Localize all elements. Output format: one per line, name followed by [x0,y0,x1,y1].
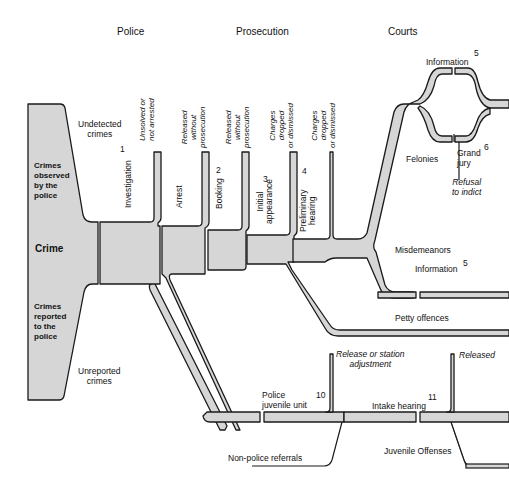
label-released: Released [459,350,495,360]
stage-police: Police [117,27,144,37]
information-mid-bar-right [420,292,509,298]
label-intake: Intake hearing [372,401,426,411]
label-non-police: Non-police referrals [228,453,302,463]
num-initial: 3 [263,174,268,184]
stage-courts: Courts [388,27,417,37]
grand-jury-path [418,106,452,142]
exit-released-1: Released without prosecution [180,107,207,148]
num-police-unit: 10 [316,390,325,400]
num-grand-jury: 6 [484,142,489,152]
label-grand-jury: Grand jury [457,148,481,168]
exit-released-2: Released without prosecution [224,107,251,148]
release-station-exit [326,354,333,412]
juvenile-bar-1 [203,412,260,422]
label-initial: Initial appearance [256,179,274,224]
information-top-path-r [455,68,509,108]
label-undetected: Undetected crimes [78,119,121,139]
num-information-top: 5 [474,48,479,58]
label-petty: Petty offences [395,313,449,323]
label-crime: Crime [35,244,63,254]
num-booking: 2 [216,165,221,175]
label-prelim: Preliminary hearing [299,189,317,232]
booking-block [208,152,249,270]
num-information-mid: 5 [463,258,468,268]
label-release-station: Release or station adjustment [336,349,405,369]
juvenile-bar-2 [264,412,344,422]
juvenile-bar-4 [420,412,509,422]
label-juvenile-offenses: Juvenile Offenses [384,446,451,456]
label-reported: Crimes reported to the police [34,302,66,342]
juvenile-bar-3 [344,412,416,422]
exit-unsolved: Unsolved or not arrested [138,98,156,141]
num-prelim: 4 [302,166,307,176]
label-observed: Crimes observed by the police [34,161,70,201]
label-arrest: Arrest [175,185,184,208]
exit-dropped-2: Charges dropped or dismissed [310,103,337,148]
num-intake: 11 [428,392,437,402]
juvenile-offenses-line [451,422,509,466]
label-investigation: Investigation [124,160,133,208]
exit-dropped-1: Charges dropped or dismissed [268,103,295,148]
label-refusal: Refusal to indict [452,177,481,197]
num-investigation: 1 [120,144,125,154]
label-information-mid: Information [415,264,458,274]
label-booking: Booking [215,178,224,209]
information-top-path [409,68,452,104]
stage-prosecution: Prosecution [236,27,289,37]
grand-jury-path-r [455,108,490,142]
label-information-top: Information [426,57,469,67]
label-unreported: Unreported crimes [78,366,121,386]
label-misdemeanors: Misdemeanors [395,245,451,255]
released-exit [447,354,454,412]
label-felonies: Felonies [406,154,438,164]
label-police-unit: Police juvenile unit [262,390,307,410]
information-mid-bar-left [378,292,416,298]
